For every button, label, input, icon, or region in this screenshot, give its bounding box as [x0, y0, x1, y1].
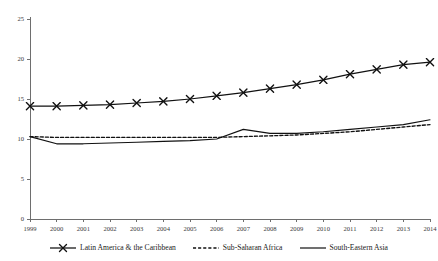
marker-layer — [26, 59, 433, 110]
x-tick-label: 2012 — [370, 225, 383, 232]
y-tick-label: 10 — [17, 135, 24, 142]
solid-line-icon — [300, 243, 326, 253]
x-tick-label: 2007 — [237, 225, 251, 232]
x-tick-label: 2001 — [77, 225, 90, 232]
legend-label-latin-america: Latin America & the Caribbean — [80, 244, 176, 252]
legend-label-sub-saharan-africa: Sub-Saharan Africa — [223, 244, 283, 252]
x-tick-label: 2003 — [130, 225, 144, 232]
legend-item-sub-saharan-africa: Sub-Saharan Africa — [193, 243, 283, 253]
legend-label-south-eastern-asia: South-Eastern Asia — [330, 244, 388, 252]
x-tick-label: 2000 — [50, 225, 64, 232]
x-tick-label: 2008 — [263, 225, 277, 232]
x-tick-label: 2006 — [210, 225, 224, 232]
series-line-south-eastern-asia — [30, 120, 430, 144]
x-tick-label: 2009 — [290, 225, 304, 232]
series-layer — [30, 62, 430, 144]
y-tick-label: 15 — [17, 95, 24, 102]
y-axis-ticks: 0510152025 — [17, 15, 30, 222]
x-tick-label: 2010 — [317, 225, 331, 232]
x-tick-label: 2014 — [423, 225, 437, 232]
dashed-line-icon — [193, 243, 219, 253]
series-line-sub-saharan-africa — [30, 125, 430, 138]
legend-item-latin-america: Latin America & the Caribbean — [50, 243, 176, 253]
x-tick-label: 2004 — [157, 225, 171, 232]
line-chart-plot: 0510152025 19992000200120022003200420052… — [0, 0, 438, 261]
y-tick-label: 20 — [17, 55, 24, 62]
x-tick-label: 1999 — [23, 225, 37, 232]
chart-figure: 0510152025 19992000200120022003200420052… — [0, 0, 438, 261]
line-with-x-marker-icon — [50, 243, 76, 253]
x-tick-label: 2013 — [397, 225, 411, 232]
series-line-latin-america — [30, 62, 430, 106]
x-tick-label: 2011 — [344, 225, 357, 232]
legend-item-south-eastern-asia: South-Eastern Asia — [300, 243, 388, 253]
x-tick-label: 2002 — [103, 225, 116, 232]
y-tick-label: 0 — [21, 215, 25, 222]
y-tick-label: 5 — [21, 175, 25, 182]
x-axis-ticks: 1999200020012002200320042005200620072008… — [23, 219, 437, 232]
y-tick-label: 25 — [17, 15, 24, 22]
chart-axes — [30, 17, 430, 219]
x-tick-label: 2005 — [183, 225, 197, 232]
chart-legend: Latin America & the Caribbean Sub-Sahara… — [0, 238, 438, 258]
